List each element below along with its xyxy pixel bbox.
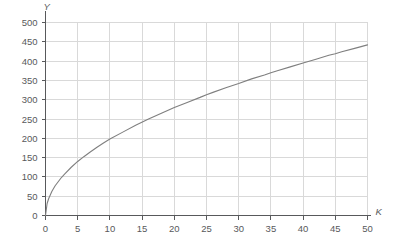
y-tick-label: 250 (22, 114, 38, 125)
x-tick-label: 20 (169, 223, 180, 234)
x-tick-label: 45 (330, 223, 341, 234)
chart-background (0, 0, 399, 247)
x-tick-label: 35 (266, 223, 277, 234)
y-tick-label: 0 (32, 210, 37, 221)
x-tick-label: 30 (233, 223, 244, 234)
x-tick-label: 5 (75, 223, 80, 234)
x-tick-label: 50 (362, 223, 373, 234)
chart-container: 05101520253035404550 0501001502002503003… (0, 0, 399, 247)
y-tick-label: 50 (27, 191, 38, 202)
x-tick-label: 15 (137, 223, 148, 234)
y-tick-label: 400 (22, 56, 38, 67)
x-tick-label: 0 (43, 223, 48, 234)
x-tick-label: 10 (105, 223, 116, 234)
y-tick-label: 100 (22, 171, 38, 182)
y-tick-label: 500 (22, 17, 38, 28)
y-tick-label: 200 (22, 133, 38, 144)
y-tick-label: 300 (22, 94, 38, 105)
y-tick-label: 350 (22, 75, 38, 86)
chart-plot: 05101520253035404550 0501001502002503003… (0, 0, 399, 247)
y-tick-label: 150 (22, 152, 38, 163)
y-tick-label: 450 (22, 36, 38, 47)
x-tick-label: 25 (201, 223, 212, 234)
x-tick-label: 40 (298, 223, 309, 234)
y-axis-label: Y (44, 1, 51, 12)
x-axis-label: K (376, 206, 383, 217)
